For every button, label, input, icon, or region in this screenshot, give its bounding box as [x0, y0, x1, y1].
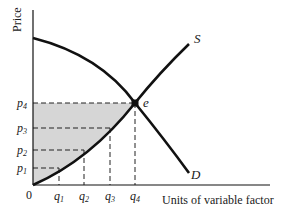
origin-label: 0: [26, 188, 32, 202]
price-tick-labels: p4 p3 p2 p1: [16, 96, 27, 176]
equilibrium-point: [132, 100, 139, 107]
svg-text:p3: p3: [16, 121, 27, 136]
y-axis-label: Price: [10, 7, 24, 32]
svg-text:q2: q2: [79, 189, 89, 204]
quantity-tick-labels: q1 q2 q3 q4: [54, 189, 140, 204]
equilibrium-label: e: [143, 95, 149, 110]
svg-text:p2: p2: [16, 143, 27, 158]
shaded-surplus-area: [33, 103, 135, 185]
svg-text:p1: p1: [16, 161, 27, 176]
svg-text:q1: q1: [54, 189, 64, 204]
svg-text:q4: q4: [130, 189, 140, 204]
demand-label: D: [190, 167, 201, 182]
svg-text:q3: q3: [105, 189, 115, 204]
supply-label: S: [194, 31, 201, 46]
svg-text:p4: p4: [16, 96, 27, 111]
x-axis-label: Units of variable factor: [162, 193, 274, 207]
chart-canvas: Price Units of variable factor 0 S D e p…: [0, 0, 285, 216]
